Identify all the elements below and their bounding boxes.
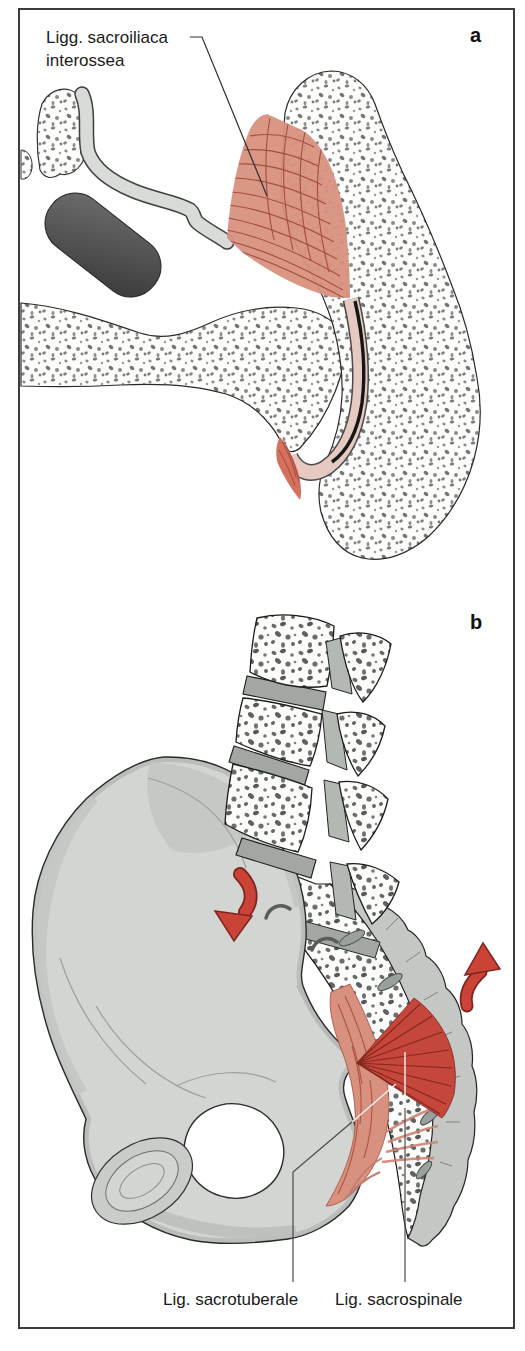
panel-a-drawing [21,71,480,559]
label-line-1: Ligg. sacroiliaca [46,26,168,49]
figure-page: Ligg. sacroiliaca interossea a b Lig. sa… [0,0,525,1351]
label-lig-sacrotuberale: Lig. sacrotuberale [163,1288,298,1311]
label-line-2: interossea [46,49,168,72]
spinous-processes [322,633,399,924]
sacrum-section-bone [21,303,345,452]
rotation-arrow-up-icon [465,943,500,1006]
panel-a-marker: a [470,24,481,47]
label-lig-sacrospinale: Lig. sacrospinale [335,1288,463,1311]
anatomy-illustration [0,0,525,1351]
panel-b-marker: b [470,611,482,634]
label-ligg-sacroiliaca-interossea: Ligg. sacroiliaca interossea [46,26,168,72]
vertebra-body [250,615,334,687]
hip-bone [32,757,364,1243]
panel-b-drawing [32,615,500,1246]
